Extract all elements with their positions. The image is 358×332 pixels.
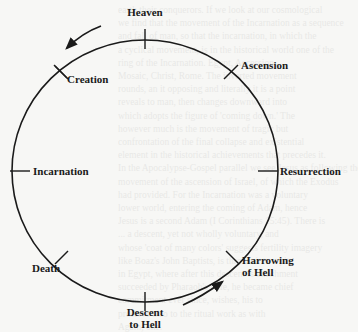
label-harrowing-line1: Harrowing <box>242 254 294 266</box>
label-descent-line2: to Hell <box>118 318 172 330</box>
label-creation: Creation <box>67 73 108 85</box>
label-heaven: Heaven <box>122 6 168 18</box>
arrow-counterclockwise-top <box>67 26 101 48</box>
label-descent: Descent to Hell <box>118 306 172 330</box>
tick-harrowing <box>226 251 239 264</box>
arrow-counterclockwise-bottom <box>183 282 222 305</box>
label-harrowing: Harrowing of Hell <box>242 254 294 278</box>
label-death: Death <box>32 262 60 274</box>
label-incarnation: Incarnation <box>33 165 89 177</box>
label-ascension: Ascension <box>241 59 288 71</box>
label-descent-line1: Descent <box>118 306 172 318</box>
label-resurrection: Resurrection <box>280 165 341 177</box>
label-harrowing-line2: of Hell <box>242 266 294 278</box>
